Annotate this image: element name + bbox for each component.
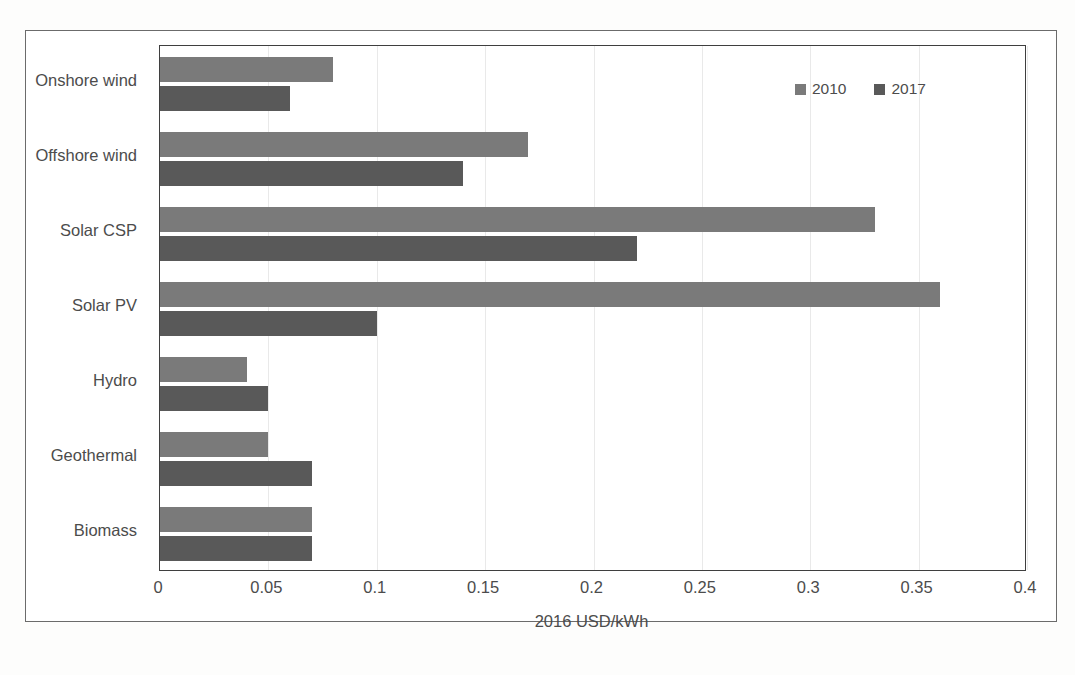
bar-solar-pv-2010 xyxy=(160,282,940,307)
y-axis-label-geothermal: Geothermal xyxy=(51,446,137,465)
x-tick-0.05: 0.05 xyxy=(250,578,282,597)
bar-offshore-wind-2017 xyxy=(160,161,463,186)
gridline xyxy=(810,46,811,570)
legend-label: 2017 xyxy=(891,80,925,98)
legend-swatch-icon xyxy=(795,84,806,95)
gridline xyxy=(268,46,269,570)
x-tick-0.1: 0.1 xyxy=(363,578,386,597)
y-axis-label-solar-pv: Solar PV xyxy=(72,296,137,315)
x-tick-0.4: 0.4 xyxy=(1014,578,1037,597)
y-axis-label-biomass: Biomass xyxy=(74,521,137,540)
x-axis-tick-labels: 00.050.10.150.20.250.30.350.4 xyxy=(25,578,1057,608)
y-axis-label-offshore-wind: Offshore wind xyxy=(36,146,138,165)
plot-area xyxy=(159,45,1026,571)
bar-solar-csp-2017 xyxy=(160,236,637,261)
y-axis-label-solar-csp: Solar CSP xyxy=(60,221,137,240)
x-axis-title: 2016 USD/kWh xyxy=(158,612,1025,631)
bar-hydro-2010 xyxy=(160,357,247,382)
gridline xyxy=(1027,46,1028,570)
legend-item-2010: 2010 xyxy=(795,80,846,98)
y-axis-label-onshore-wind: Onshore wind xyxy=(35,71,137,90)
gridline xyxy=(377,46,378,570)
gridline xyxy=(702,46,703,570)
y-axis-label-hydro: Hydro xyxy=(93,371,137,390)
chart-legend: 20102017 xyxy=(795,80,926,98)
x-tick-0: 0 xyxy=(153,578,162,597)
legend-item-2017: 2017 xyxy=(874,80,925,98)
x-tick-0.2: 0.2 xyxy=(580,578,603,597)
bar-biomass-2017 xyxy=(160,536,312,561)
bar-solar-pv-2017 xyxy=(160,311,377,336)
bar-geothermal-2010 xyxy=(160,432,268,457)
bar-hydro-2017 xyxy=(160,386,268,411)
legend-label: 2010 xyxy=(812,80,846,98)
bar-onshore-wind-2010 xyxy=(160,57,333,82)
gridline xyxy=(485,46,486,570)
bar-solar-csp-2010 xyxy=(160,207,875,232)
gridline xyxy=(919,46,920,570)
bar-offshore-wind-2010 xyxy=(160,132,528,157)
x-tick-0.3: 0.3 xyxy=(797,578,820,597)
gridline xyxy=(594,46,595,570)
y-axis-category-labels: Onshore windOffshore windSolar CSPSolar … xyxy=(0,30,145,622)
bar-geothermal-2017 xyxy=(160,461,312,486)
x-tick-0.15: 0.15 xyxy=(467,578,499,597)
x-tick-0.35: 0.35 xyxy=(901,578,933,597)
chart-outer-frame xyxy=(25,30,1057,622)
bar-onshore-wind-2017 xyxy=(160,86,290,111)
x-tick-0.25: 0.25 xyxy=(684,578,716,597)
bar-biomass-2010 xyxy=(160,507,312,532)
legend-swatch-icon xyxy=(874,84,885,95)
